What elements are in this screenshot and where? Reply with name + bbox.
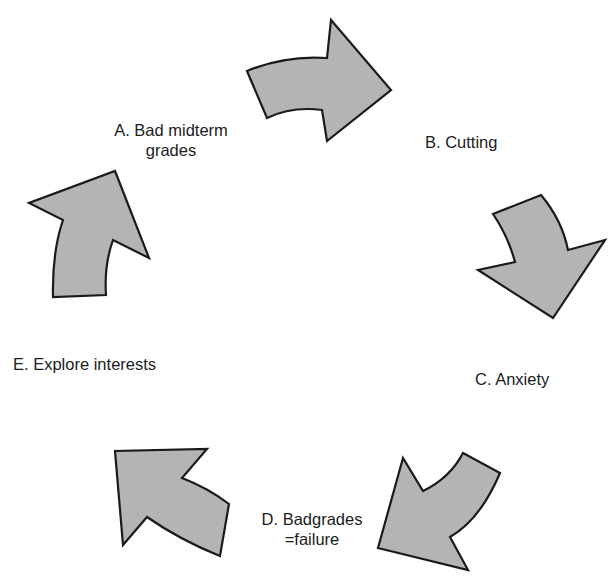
node-d-label: D. Badgrades =failure (242, 509, 382, 549)
node-e-line-1: E. Explore interests (13, 354, 213, 374)
curved-arrow-up-left-icon (115, 449, 229, 556)
curved-arrow-down-left-icon (378, 453, 500, 570)
node-a-line-2: grades (96, 140, 246, 160)
node-d-line-2: =failure (242, 529, 382, 549)
node-a-label: A. Bad midterm grades (96, 120, 246, 160)
node-d-line-1: D. Badgrades (242, 509, 382, 529)
node-c-line-1: C. Anxiety (475, 369, 575, 389)
node-c-label: C. Anxiety (475, 369, 575, 389)
node-b-line-1: B. Cutting (425, 132, 535, 152)
cycle-arrows (0, 0, 612, 583)
node-a-line-1: A. Bad midterm (96, 120, 246, 140)
curved-arrow-up-icon (29, 171, 149, 297)
curved-arrow-down-icon (478, 195, 605, 318)
node-b-label: B. Cutting (425, 132, 535, 152)
node-e-label: E. Explore interests (13, 354, 213, 374)
curved-arrow-right-icon (247, 20, 391, 141)
